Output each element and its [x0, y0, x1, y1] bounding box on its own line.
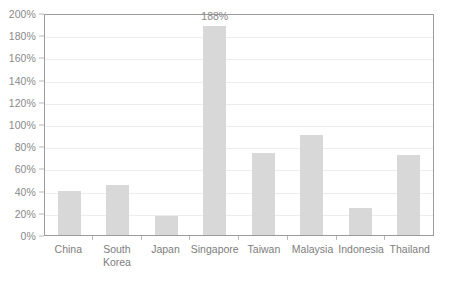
x-axis-category-label: Singapore [190, 243, 240, 269]
bar-value-label: 188% [201, 10, 228, 22]
bar-slot [94, 15, 143, 235]
bar[interactable] [203, 26, 226, 235]
x-axis-category-label: Taiwan [240, 243, 289, 269]
x-axis-ticks [44, 236, 434, 241]
bar-slot [336, 15, 385, 235]
y-axis-tick-label: 140% [9, 75, 36, 87]
x-axis-tick-cell [44, 236, 93, 241]
y-axis-tick-label: 100% [9, 119, 36, 131]
y-axis-tick-label: 200% [9, 8, 36, 20]
bar[interactable] [106, 185, 129, 235]
bar-slot [239, 15, 288, 235]
y-axis-tick-label: 180% [9, 30, 36, 42]
x-axis-tick-cell [93, 236, 142, 241]
x-axis-category-label: South Korea [93, 243, 142, 269]
x-axis-category-label: Japan [141, 243, 190, 269]
bar-chart: 0%20%40%60%80%100%120%140%160%180%200% 1… [0, 0, 454, 285]
bar[interactable] [397, 155, 420, 235]
bar[interactable] [349, 208, 372, 235]
x-axis-tick-cell [239, 236, 288, 241]
bar-slot [385, 15, 434, 235]
bar-slot [142, 15, 191, 235]
bar-slot: 188% [191, 15, 240, 235]
x-axis-category-label: China [44, 243, 93, 269]
x-axis-tick-cell [142, 236, 191, 241]
x-axis-category-label: Indonesia [337, 243, 386, 269]
x-axis-category-label: Malaysia [288, 243, 337, 269]
y-axis-tick-label: 120% [9, 97, 36, 109]
x-axis-tick-cell [288, 236, 337, 241]
x-axis-labels: ChinaSouth KoreaJapanSingaporeTaiwanMala… [44, 243, 434, 269]
y-axis-tick-label: 20% [15, 208, 36, 220]
y-axis-tick-label: 0% [21, 230, 36, 242]
bar[interactable] [300, 135, 323, 235]
plot-area: 188% [44, 14, 434, 236]
y-axis: 0%20%40%60%80%100%120%140%160%180%200% [0, 14, 44, 236]
y-axis-tick-label: 160% [9, 52, 36, 64]
y-axis-tick-label: 40% [15, 186, 36, 198]
bar[interactable] [252, 153, 275, 235]
bar-slot [45, 15, 94, 235]
x-axis-tick-cell [385, 236, 434, 241]
bar[interactable] [155, 216, 178, 235]
bar[interactable] [58, 191, 81, 235]
bars-container: 188% [45, 15, 433, 235]
x-axis-category-label: Thailand [385, 243, 434, 269]
bar-slot [288, 15, 337, 235]
y-axis-tick-label: 80% [15, 141, 36, 153]
x-axis-tick-cell [337, 236, 386, 241]
y-axis-tick-label: 60% [15, 163, 36, 175]
x-axis-tick-cell [190, 236, 239, 241]
